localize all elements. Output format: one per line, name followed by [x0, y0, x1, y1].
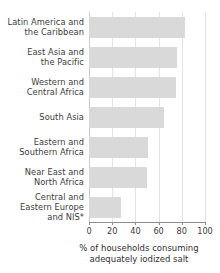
category-label: East Asia andthe Pacific [0, 47, 84, 67]
category-label-line: Southern Africa [0, 147, 84, 157]
x-axis: 020406080100 [89, 222, 205, 236]
bar-row [89, 167, 147, 188]
x-axis-title-line: adequately iodized salt [60, 254, 218, 265]
x-tick-mark [135, 222, 136, 225]
bar [89, 77, 176, 98]
bar [89, 167, 147, 188]
bar [89, 47, 177, 68]
category-label: Eastern andSouthern Africa [0, 137, 84, 157]
category-label-line: Eastern and [0, 137, 84, 147]
bar [89, 17, 185, 38]
bar-row [89, 17, 185, 38]
category-label: Near East andNorth Africa [0, 167, 84, 187]
x-tick-mark [159, 222, 160, 225]
gridline-100 [205, 12, 206, 222]
bars-layer [89, 12, 205, 222]
x-axis-title: % of households consumingadequately iodi… [60, 243, 218, 264]
x-tick-mark [112, 222, 113, 225]
category-label: Latin America andthe Caribbean [0, 17, 84, 37]
bar [89, 197, 121, 218]
bar [89, 137, 148, 158]
x-tick-mark [182, 222, 183, 225]
x-axis-title-line: % of households consuming [60, 243, 218, 254]
category-label: Western andCentral Africa [0, 77, 84, 97]
x-tick-mark [89, 222, 90, 225]
category-label-line: North Africa [0, 177, 84, 187]
category-label-line: the Pacific [0, 57, 84, 67]
x-tick-label: 60 [153, 226, 163, 236]
category-label-line: South Asia [0, 112, 84, 122]
bar-row [89, 107, 164, 128]
x-tick-label: 40 [130, 226, 140, 236]
category-label-line: Near East and [0, 167, 84, 177]
category-label-line: Latin America and [0, 17, 84, 27]
bar-row [89, 77, 176, 98]
category-label-line: and NIS* [0, 212, 84, 222]
x-tick-label: 20 [107, 226, 117, 236]
category-label-line: the Caribbean [0, 27, 84, 37]
bar [89, 107, 164, 128]
x-tick-label: 80 [177, 226, 187, 236]
x-axis-line [89, 222, 205, 223]
bar-row [89, 47, 177, 68]
category-axis-labels: Latin America andthe CaribbeanEast Asia … [0, 12, 84, 222]
category-label: Central andEastern Europeand NIS* [0, 192, 84, 222]
plot-area [89, 12, 205, 222]
category-label-line: East Asia and [0, 47, 84, 57]
category-label-line: Eastern Europe [0, 202, 84, 212]
x-tick-mark [205, 222, 206, 225]
category-label-line: Western and [0, 77, 84, 87]
x-tick-label: 0 [86, 226, 91, 236]
x-tick-label: 100 [197, 226, 213, 236]
bar-row [89, 137, 148, 158]
category-label-line: Central and [0, 192, 84, 202]
bar-chart: Latin America andthe CaribbeanEast Asia … [0, 0, 220, 273]
bar-row [89, 197, 121, 218]
category-label-line: Central Africa [0, 87, 84, 97]
category-label: South Asia [0, 112, 84, 122]
